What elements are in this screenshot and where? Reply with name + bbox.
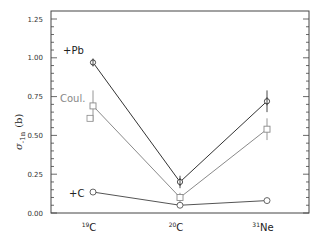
series-pb: [90, 58, 269, 188]
y-tick-label: 0.25: [27, 171, 43, 179]
y-tick-label: 0.00: [27, 210, 43, 218]
series-group: [87, 58, 270, 208]
series-labels: +PbCoul.+C: [60, 45, 85, 199]
series-label: +C: [69, 188, 84, 199]
x-axis: 19C20C31Ne: [82, 221, 274, 233]
data-point: [264, 126, 270, 132]
series-label: +Pb: [63, 45, 84, 56]
data-point: [90, 189, 96, 195]
y-axis-title: σ-1n(b): [13, 114, 27, 150]
y-tick-label: 0.50: [27, 132, 43, 140]
data-point: [264, 198, 270, 204]
chart: 0.000.250.500.751.001.25 19C20C31Ne +PbC…: [0, 0, 325, 239]
y-tick-label: 1.00: [27, 54, 43, 62]
y-tick-label: 1.25: [27, 16, 43, 24]
y-axis-label: σ-1n(b): [13, 114, 27, 150]
data-point: [90, 103, 96, 109]
data-point: [177, 194, 183, 200]
x-category-label: 20C: [169, 221, 184, 233]
data-point-extra: [87, 115, 93, 121]
x-category-label: 19C: [82, 221, 97, 233]
data-point: [177, 202, 183, 208]
x-category-label: 31Ne: [252, 221, 273, 233]
series-label: Coul.: [60, 93, 85, 104]
series-coul: [87, 90, 270, 202]
y-tick-label: 0.75: [27, 93, 43, 101]
